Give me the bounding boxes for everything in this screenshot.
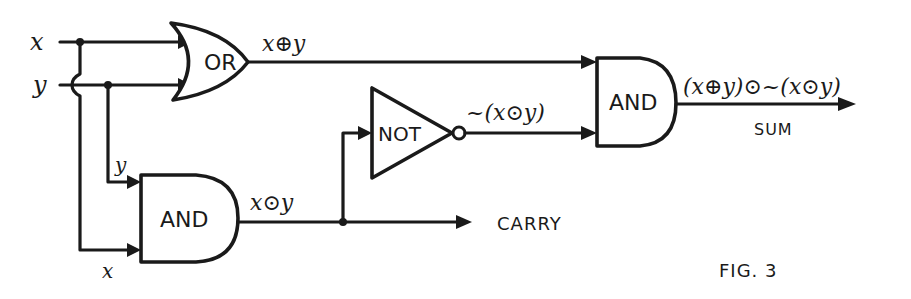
- sum-output-label: SUM: [754, 120, 793, 139]
- or-gate: OR: [171, 23, 248, 100]
- arrow-xor-and: [581, 55, 597, 69]
- arrow-x-and: [127, 243, 141, 257]
- arrow-not-input: [358, 126, 372, 140]
- sum-expression-label: (x⊕y)⊙~(x⊙y): [683, 74, 841, 99]
- not-xand-signal-label: ~(x⊙y): [466, 100, 545, 125]
- half-adder-diagram: x y y x OR x⊕y AND x⊙y CARRY NOT: [0, 0, 911, 299]
- carry-output-label: CARRY: [497, 213, 562, 234]
- and-sum-label: AND: [609, 90, 657, 115]
- and-carry-label: AND: [160, 207, 208, 232]
- and-input-x-label: x: [102, 259, 113, 283]
- or-gate-label: OR: [204, 50, 237, 75]
- arrow-not-and: [581, 126, 597, 140]
- wire-x-branch: [72, 42, 130, 250]
- input-y-label: y: [32, 71, 47, 99]
- not-bubble: [453, 127, 465, 139]
- figure-caption: FIG. 3: [719, 260, 778, 281]
- arrow-sum: [838, 97, 856, 111]
- arrow-y-and: [127, 175, 141, 189]
- arrow-carry: [456, 215, 472, 229]
- not-gate-label: NOT: [378, 122, 422, 146]
- not-gate: NOT: [372, 88, 465, 178]
- and-gate-carry: AND: [141, 175, 238, 262]
- input-x-label: x: [30, 28, 44, 56]
- and-gate-sum: AND: [597, 58, 676, 146]
- xor-signal-label: x⊕y: [262, 31, 306, 56]
- wire-xand-to-not: [343, 133, 360, 222]
- xand-signal-label: x⊙y: [250, 190, 294, 215]
- and-input-y-label: y: [114, 153, 127, 177]
